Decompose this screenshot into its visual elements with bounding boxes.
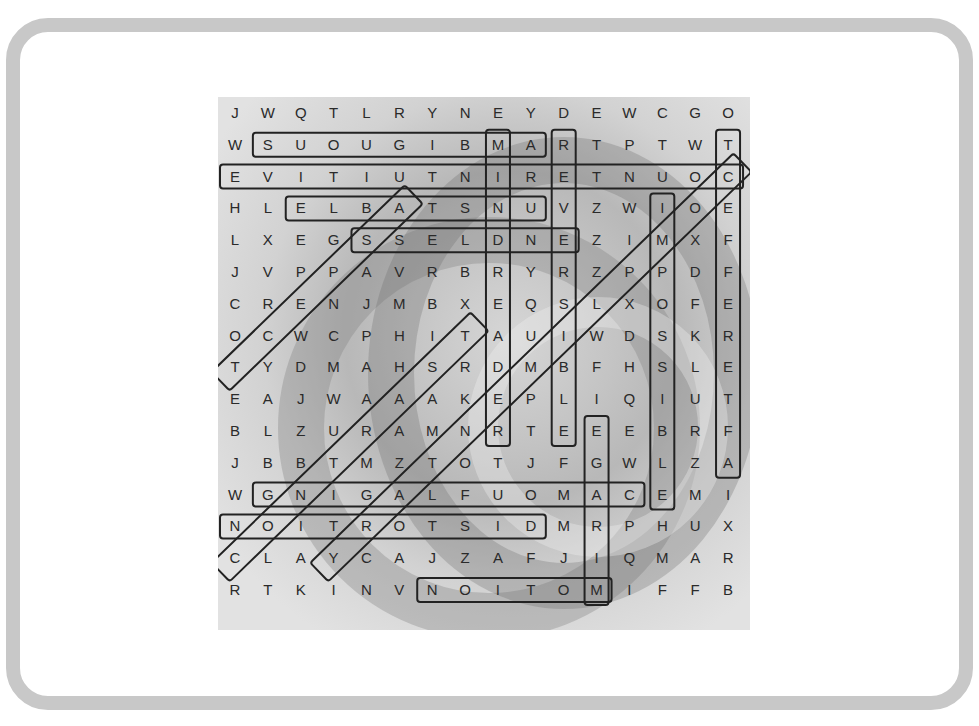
found-word-outline-motion (417, 578, 611, 602)
found-word-outline-mirage (585, 416, 609, 605)
found-word-outline-impossible (650, 193, 674, 509)
found-word-outline-mindreader (486, 130, 510, 446)
found-word-outline-distortion (220, 514, 546, 538)
found-word-outline-complimentary (310, 153, 750, 581)
found-word-outline-aspect (218, 185, 423, 390)
found-word-outline-ambiguous (253, 133, 546, 157)
found-word-outline-contrast (218, 312, 489, 581)
found-word-outline-aftereffect (716, 130, 740, 478)
found-word-outline-reversible (552, 130, 576, 446)
found-word-outlines (218, 97, 750, 630)
found-word-outline-counterintuitive (220, 165, 743, 189)
word-search-puzzle: JWQTLRYNEYDEWCGOWSUOUGIBMARTPTWTEVITIUTN… (218, 97, 750, 630)
found-word-outline-unstable (286, 196, 546, 220)
